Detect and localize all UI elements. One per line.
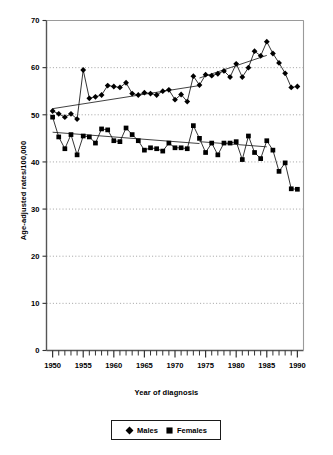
svg-text:70: 70 <box>31 16 39 25</box>
series-markers-group <box>50 39 301 192</box>
legend-label-females: Females <box>177 426 207 435</box>
svg-text:1970: 1970 <box>167 361 184 370</box>
svg-text:40: 40 <box>31 158 39 167</box>
svg-text:30: 30 <box>31 205 39 214</box>
legend-entry-females: Females <box>165 426 207 435</box>
square-marker-icon <box>165 426 174 435</box>
legend-entry-males: Males <box>125 426 158 435</box>
svg-text:0: 0 <box>35 346 39 355</box>
x-axis-title: Year of diagnosis <box>0 388 333 397</box>
diamond-marker-icon <box>125 426 134 435</box>
y-axis-title: Age-adjusted rates/100,000 <box>19 96 28 286</box>
legend-label-males: Males <box>137 426 158 435</box>
svg-text:20: 20 <box>31 252 39 261</box>
y-ticks-group: 010203040506070 <box>31 16 46 355</box>
svg-text:1955: 1955 <box>75 361 93 370</box>
chart-figure: 010203040506070 195019551960196519701975… <box>0 0 333 455</box>
svg-text:1950: 1950 <box>44 361 61 370</box>
svg-text:60: 60 <box>31 63 39 72</box>
series-lines-group <box>53 42 298 190</box>
svg-text:1965: 1965 <box>136 361 154 370</box>
svg-text:1975: 1975 <box>197 361 215 370</box>
svg-text:1985: 1985 <box>258 361 276 370</box>
x-ticks-group: 195019551960196519701975198019851990 <box>44 351 306 370</box>
gridlines-group <box>47 21 304 304</box>
chart-plot-area: 010203040506070 195019551960196519701975… <box>0 0 333 455</box>
svg-text:1980: 1980 <box>228 361 245 370</box>
svg-text:10: 10 <box>31 299 39 308</box>
svg-text:1990: 1990 <box>289 361 306 370</box>
chart-legend: Males Females <box>111 420 221 440</box>
svg-text:50: 50 <box>31 111 39 120</box>
svg-text:1960: 1960 <box>105 361 122 370</box>
